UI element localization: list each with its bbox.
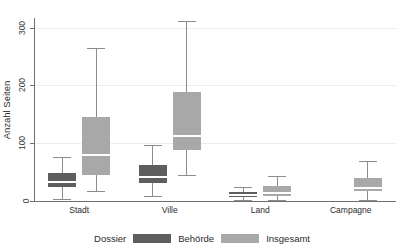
y-axis-label-host: Anzahl Seiten: [2, 18, 16, 201]
cap-lower: [87, 191, 105, 192]
y-tick-label-200: 200: [17, 78, 27, 92]
boxplot-land-behrde: [229, 18, 257, 201]
box-iqr: [139, 165, 167, 183]
y-axis-label: Anzahl Seiten: [1, 80, 12, 139]
whisker-lower: [96, 175, 97, 191]
boxplot-ville-behrde: [139, 18, 167, 201]
y-tick-label-host-300: 300: [34, 28, 35, 29]
whisker-upper: [62, 157, 63, 173]
box-iqr: [354, 178, 382, 191]
y-tick-label-0: 0: [22, 199, 32, 204]
cap-upper: [53, 157, 71, 158]
y-tick-label-300: 300: [17, 21, 27, 35]
legend-swatch-insgesamt: [221, 234, 259, 243]
legend-label-insgesamt: Insgesamt: [266, 233, 310, 244]
cap-lower: [144, 196, 162, 197]
whisker-lower: [152, 183, 153, 196]
median-line: [173, 135, 201, 137]
x-tick-label-campagne: Campagne: [330, 205, 372, 215]
whisker-upper: [367, 161, 368, 179]
cap-lower: [359, 200, 377, 201]
legend-title: Dossier: [94, 233, 126, 244]
median-line: [354, 187, 382, 189]
whisker-lower: [367, 191, 368, 200]
y-tick-label-host-200: 200: [34, 85, 35, 86]
chart-legend: Dossier Behörde Insgesamt: [0, 230, 404, 246]
chart-root: Anzahl Seiten 0100200300 StadtVilleLandC…: [0, 0, 404, 248]
y-axis-line: [34, 18, 35, 201]
legend-swatch-behoerde: [133, 234, 171, 243]
cap-upper: [359, 161, 377, 162]
cap-lower: [268, 200, 286, 201]
cap-lower: [234, 200, 252, 201]
cap-upper: [268, 176, 286, 177]
y-tick-label-100: 100: [17, 136, 27, 150]
y-tick-label-host-100: 100: [34, 143, 35, 144]
cap-upper: [87, 48, 105, 49]
x-axis-line: [34, 201, 396, 202]
median-line: [229, 194, 257, 196]
median-line: [82, 154, 110, 156]
boxplot-stadt-behrde: [48, 18, 76, 201]
box-iqr: [173, 92, 201, 150]
x-tick-label-land: Land: [251, 205, 270, 215]
plot-area: 0100200300: [34, 18, 396, 201]
box-iqr: [82, 117, 110, 175]
y-tick-label-host-0: 0: [34, 201, 35, 202]
boxplot-stadt-insgesamt: [82, 18, 110, 201]
cap-upper: [234, 187, 252, 188]
median-line: [263, 192, 291, 194]
x-tick-label-ville: Ville: [162, 205, 178, 215]
x-tick-label-stadt: Stadt: [69, 205, 89, 215]
cap-lower: [53, 199, 71, 200]
whisker-upper: [186, 21, 187, 92]
chart-title-cropped: [0, 0, 404, 6]
whisker-upper: [277, 176, 278, 186]
whisker-upper: [96, 48, 97, 117]
median-line: [48, 181, 76, 183]
whisker-lower: [62, 187, 63, 199]
boxplot-land-insgesamt: [263, 18, 291, 201]
boxplot-ville-insgesamt: [173, 18, 201, 201]
legend-label-behoerde: Behörde: [178, 233, 214, 244]
whisker-upper: [152, 145, 153, 165]
median-line: [139, 176, 167, 178]
cap-upper: [178, 21, 196, 22]
cap-lower: [178, 175, 196, 176]
x-axis-tick-labels: StadtVilleLandCampagne: [34, 205, 396, 219]
whisker-lower: [186, 150, 187, 175]
box-iqr: [263, 186, 291, 196]
boxplot-campagne-insgesamt: [354, 18, 382, 201]
cap-upper: [144, 145, 162, 146]
